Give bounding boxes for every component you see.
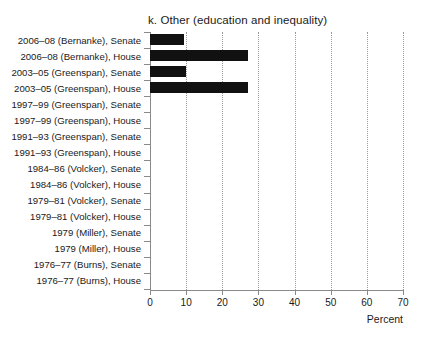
y-axis-tick-label: 2006–08 (Bernanke), House (5, 51, 141, 62)
gridline (295, 32, 296, 290)
y-axis-tick-label: 1984–86 (Volcker), House (5, 179, 141, 190)
y-axis-tick (144, 160, 150, 161)
x-axis-tick-label: 50 (325, 297, 336, 308)
y-axis-tick (144, 176, 150, 177)
x-axis-tick-label: 20 (217, 297, 228, 308)
y-axis-tick (144, 128, 150, 129)
y-axis-tick-label: 2006–08 (Bernanke), Senate (5, 35, 141, 46)
y-axis-tick (144, 193, 150, 194)
x-axis-tick (150, 290, 151, 295)
gridline (222, 32, 223, 290)
x-axis-caption: Percent (367, 313, 403, 325)
y-axis-tick-label: 1991–93 (Greenspan), Senate (5, 131, 141, 142)
y-axis-tick (144, 144, 150, 145)
y-axis-tick (144, 225, 150, 226)
x-axis-tick-label: 60 (361, 297, 372, 308)
y-axis-tick-label: 1984–86 (Volcker), Senate (5, 163, 141, 174)
bar (150, 66, 186, 77)
gridline (367, 32, 368, 290)
gridline (331, 32, 332, 290)
y-axis-tick-label: 1976–77 (Burns), Senate (5, 259, 141, 270)
x-axis-tick-label: 10 (181, 297, 192, 308)
y-axis-tick-label: 1997–99 (Greenspan), Senate (5, 99, 141, 110)
plot-area (150, 32, 403, 290)
y-axis-tick-label: 2003–05 (Greenspan), Senate (5, 67, 141, 78)
x-axis-tick-label: 0 (147, 297, 153, 308)
gridline (403, 32, 404, 290)
y-axis-tick-label: 1979 (Miller), Senate (5, 227, 141, 238)
chart-title: k. Other (education and inequality) (148, 14, 327, 26)
y-axis-tick-label: 1991–93 (Greenspan), House (5, 147, 141, 158)
y-axis-tick (144, 64, 150, 65)
y-axis-tick-label: 1979–81 (Volcker), Senate (5, 195, 141, 206)
y-axis-tick (144, 241, 150, 242)
bar (150, 50, 248, 61)
gridline (186, 32, 187, 290)
x-axis-tick (403, 290, 404, 295)
y-axis-tick (144, 48, 150, 49)
gridline (258, 32, 259, 290)
y-axis-tick-label: 1979 (Miller), House (5, 243, 141, 254)
x-axis-tick (258, 290, 259, 295)
y-axis-tick (144, 96, 150, 97)
x-axis-tick-label: 30 (253, 297, 264, 308)
y-axis-tick-label: 1976–77 (Burns), House (5, 275, 141, 286)
y-axis-tick (144, 273, 150, 274)
x-axis-tick-label: 70 (397, 297, 408, 308)
y-axis-tick (144, 209, 150, 210)
bar (150, 34, 184, 45)
x-axis-tick (367, 290, 368, 295)
x-axis-tick (186, 290, 187, 295)
y-axis-tick-label: 2003–05 (Greenspan), House (5, 83, 141, 94)
x-axis-tick (222, 290, 223, 295)
x-axis-tick (295, 290, 296, 295)
y-axis-tick (144, 80, 150, 81)
y-axis-tick (144, 32, 150, 33)
bar (150, 82, 248, 93)
y-axis-tick (144, 257, 150, 258)
x-axis-tick (331, 290, 332, 295)
x-axis-tick-label: 40 (289, 297, 300, 308)
y-axis-tick (144, 112, 150, 113)
chart-container: k. Other (education and inequality) 2006… (0, 0, 423, 340)
y-axis-tick-label: 1997–99 (Greenspan), House (5, 115, 141, 126)
y-axis-tick-label: 1979–81 (Volcker), House (5, 211, 141, 222)
